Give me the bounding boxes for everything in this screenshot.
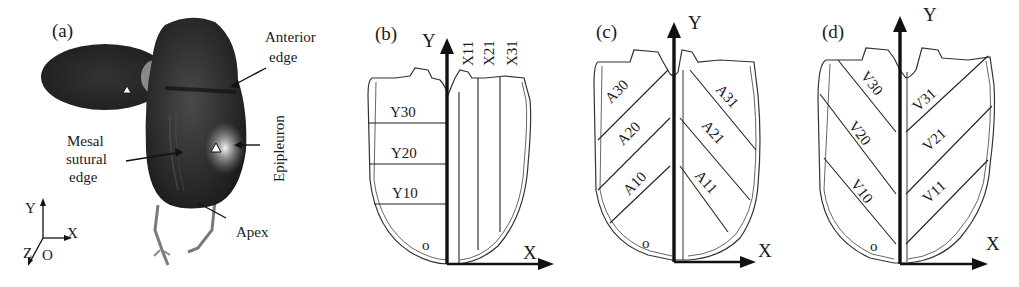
elytron-diagram-c: (c) Y X o A30 A20 A10 A31 A21 A11 <box>570 0 790 287</box>
region-label: Y20 <box>391 145 417 161</box>
region-label: Y10 <box>392 185 418 201</box>
panel-b: (b) Y X o Y30 Y20 Y10 X11 X21 X31 <box>340 0 570 287</box>
panel-a: (a) Anterior edge Epipleuron Mesal sutur… <box>0 0 340 287</box>
annotation-anterior: Anterior <box>265 29 316 45</box>
axis-label-y: Y <box>25 200 36 216</box>
axis-label-x: X <box>986 233 1000 254</box>
beetle-body <box>146 18 247 209</box>
axis-label-x: X <box>523 242 537 263</box>
axis-label-z: Z <box>23 245 32 261</box>
y-axis-arrow-icon <box>893 16 907 32</box>
origin-label: o <box>870 238 878 254</box>
x-axis-arrow-icon <box>740 256 756 268</box>
y-axis-arrow-icon <box>667 22 681 38</box>
x-axis-arrow-icon <box>538 258 554 270</box>
annotation-sutural: sutural <box>66 151 107 167</box>
panel-label-d: (d) <box>822 21 844 43</box>
elytron-diagram-d: (d) Y X o V30 V20 V10 V31 V21 V11 <box>790 0 1019 287</box>
annotation-apex: Apex <box>236 224 269 240</box>
region-label: X31 <box>504 40 520 66</box>
annotation-epipleuron: Epipleuron <box>271 115 287 182</box>
annotation-mesal: Mesal <box>67 133 104 149</box>
elytron-diagram-b: (b) Y X o Y30 Y20 Y10 X11 X21 X31 <box>340 0 570 287</box>
beetle-photo: (a) Anterior edge Epipleuron Mesal sutur… <box>0 0 340 287</box>
annotation-edge-2: edge <box>69 169 98 185</box>
axis-label-x: X <box>758 240 772 261</box>
coordinate-triad: Y X Z O <box>23 198 78 266</box>
y-axis-arrow-icon <box>440 38 454 54</box>
axis-label-y: Y <box>422 30 436 51</box>
panel-label-c: (c) <box>596 21 617 43</box>
elytron-outline <box>368 68 531 264</box>
axis-label-origin: O <box>42 247 53 263</box>
origin-label: o <box>642 235 650 251</box>
region-label: X11 <box>460 41 476 66</box>
axis-label-x: X <box>67 225 78 241</box>
x-axis-arrow-icon <box>972 258 988 270</box>
annotation-edge: edge <box>269 49 298 65</box>
axis-label-y: Y <box>688 12 702 33</box>
region-label: X21 <box>481 40 497 66</box>
elytron-outline <box>818 48 995 263</box>
panel-label-b: (b) <box>375 23 397 45</box>
axis-label-y: Y <box>923 4 937 25</box>
panel-label-a: (a) <box>52 20 73 42</box>
arrow-anterior-icon <box>234 68 266 85</box>
region-label: Y30 <box>390 104 416 120</box>
panel-c: (c) Y X o A30 A20 A10 A31 A21 A11 <box>570 0 790 287</box>
origin-label: o <box>422 237 430 253</box>
panel-d: (d) Y X o V30 V20 V10 V31 V21 V11 <box>790 0 1019 287</box>
